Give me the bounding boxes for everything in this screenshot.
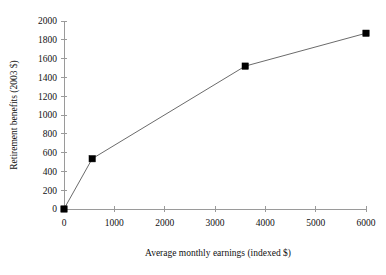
y-tick-label: 1000	[38, 110, 57, 120]
y-tick-label: 800	[43, 129, 58, 139]
x-tick-label: 5000	[306, 218, 325, 228]
y-tick-label: 2000	[38, 16, 57, 26]
data-point-marker	[242, 63, 248, 69]
x-axis-tick-labels: 0100020003000400050006000	[62, 218, 376, 228]
x-tick-label: 3000	[206, 218, 225, 228]
y-tick-label: 1400	[38, 73, 57, 83]
y-tick-label: 200	[43, 186, 58, 196]
data-point-marker	[61, 206, 67, 212]
y-tick-label: 400	[43, 167, 58, 177]
y-tick-label: 1600	[38, 54, 57, 64]
x-tick-label: 4000	[256, 218, 275, 228]
y-tick-label: 1200	[38, 92, 57, 102]
line-chart-canvas: 0200400600800100012001400160018002000 01…	[0, 0, 386, 275]
x-tick-label: 0	[62, 218, 67, 228]
x-axis-title: Average monthly earnings (indexed $)	[145, 248, 291, 259]
series-markers	[61, 30, 369, 212]
x-tick-label: 1000	[105, 218, 124, 228]
chart-figure: 0200400600800100012001400160018002000 01…	[0, 0, 386, 275]
data-point-marker	[89, 156, 95, 162]
x-tick-label: 2000	[155, 218, 174, 228]
series-line-retirement-benefits	[64, 33, 366, 209]
y-axis-title: Retirement benefits (2003 $)	[9, 60, 20, 169]
x-tick-label: 6000	[357, 218, 376, 228]
y-tick-label: 0	[52, 204, 57, 214]
y-tick-label: 1800	[38, 35, 57, 45]
y-tick-label: 600	[43, 148, 58, 158]
y-axis-tick-labels: 0200400600800100012001400160018002000	[38, 16, 57, 214]
data-point-marker	[363, 30, 369, 36]
